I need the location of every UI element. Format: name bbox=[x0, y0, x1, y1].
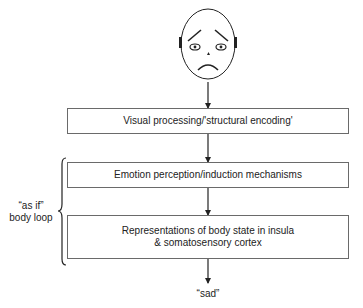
diagram-canvas bbox=[0, 0, 363, 308]
emotion-perception-label: Emotion perception/induction mechanisms bbox=[114, 169, 302, 181]
left-ear bbox=[179, 37, 182, 48]
as-if-loop-label: “as if” body loop bbox=[2, 200, 60, 224]
sad-face-icon bbox=[179, 9, 237, 79]
output-label: “sad” bbox=[178, 288, 238, 300]
body-state-label: Representations of body state in insula … bbox=[118, 225, 298, 249]
as-if-label-line2: body loop bbox=[2, 212, 60, 224]
body-state-box: Representations of body state in insula … bbox=[67, 215, 349, 259]
visual-processing-label: Visual processing/'structural encoding' bbox=[123, 115, 292, 127]
as-if-label-line1: “as if” bbox=[2, 200, 60, 212]
right-ear bbox=[234, 37, 237, 48]
emotion-perception-box: Emotion perception/induction mechanisms bbox=[67, 162, 349, 188]
visual-processing-box: Visual processing/'structural encoding' bbox=[67, 108, 349, 134]
